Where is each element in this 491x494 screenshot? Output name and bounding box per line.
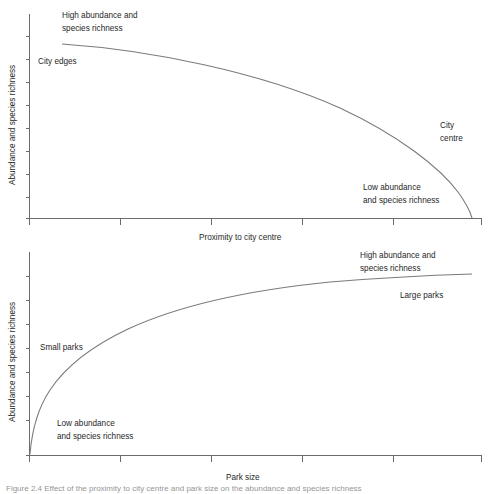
annotation-line-1: Low abundance [57,419,115,428]
chart-park-size: Abundance and species richness Park size… [0,240,491,492]
annotation-high-abundance-bottom: High abundance and species richness [360,251,436,273]
x-axis-title-bottom: Park size [226,473,260,482]
annotation-line-2: centre [440,134,463,143]
figure-caption: Figure 2.4 Effect of the proximity to ci… [6,484,486,494]
x-axis-ticks-top [30,219,482,225]
annotation-high-abundance-top: High abundance and species richness [62,11,138,33]
annotation-line-2: species richness [360,264,421,273]
annotation-line-1: High abundance and [360,251,436,260]
annotation-low-abundance-top: Low abundance and species richness [363,183,439,205]
annotation-line-1: Large parks [400,291,443,300]
chart-proximity-to-city-centre: Abundance and species richness Proximity… [0,0,491,246]
annotation-line-1: Low abundance [363,183,421,192]
annotation-line-1: Small parks [40,343,83,352]
y-axis-title-bottom: Abundance and species richness [8,302,17,422]
y-axis-title-top: Abundance and species richness [8,65,17,185]
annotation-line-2: and species richness [363,196,439,205]
y-axis-ticks-top [26,37,30,219]
x-axis-ticks-bottom [30,456,482,462]
annotation-small-parks-bottom: Small parks [40,343,83,352]
annotation-line-1: City [440,121,455,130]
annotation-line-1: High abundance and [62,11,138,20]
annotation-city-edges-top: City edges [38,57,77,66]
annotation-city-centre-top: City centre [440,121,463,143]
y-axis-ticks-bottom [26,277,30,456]
annotation-line-1: City edges [38,57,77,66]
annotation-line-2: species richness [62,24,123,33]
annotation-large-parks-bottom: Large parks [400,291,443,300]
annotation-line-2: and species richness [57,432,133,441]
annotation-low-abundance-bottom: Low abundance and species richness [57,419,133,441]
